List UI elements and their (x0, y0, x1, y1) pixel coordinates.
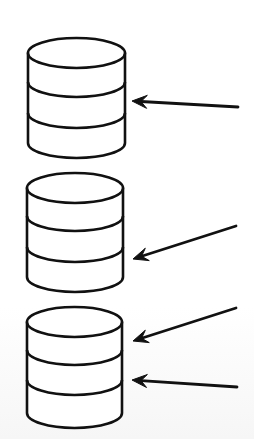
arrow-left-icon (132, 375, 237, 388)
arrow-shaft (141, 102, 238, 107)
arrows-group (132, 95, 238, 387)
arrow-shaft (142, 308, 236, 338)
cylinder-top (28, 38, 125, 68)
database-cylinder-icon (28, 38, 125, 158)
database-cylinder-icon (27, 307, 122, 428)
arrow-left-icon (133, 226, 236, 261)
database-cylinder-icon (27, 173, 123, 292)
arrow-left-icon (133, 308, 236, 343)
arrow-shaft (141, 381, 237, 387)
cylinder-top (27, 307, 122, 337)
storage-diagram (0, 0, 254, 439)
arrow-shaft (142, 226, 236, 256)
cylinders-group (27, 38, 125, 428)
diagram-canvas (0, 0, 254, 439)
arrow-left-icon (132, 95, 238, 108)
cylinder-top (27, 173, 123, 203)
